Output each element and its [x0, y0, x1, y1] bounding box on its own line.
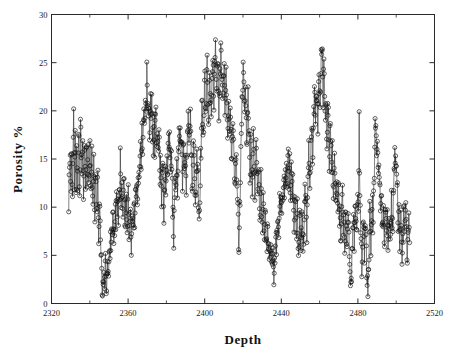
- chart-canvas: 232023602400244024802520 051015202530 De…: [0, 0, 455, 358]
- porosity-depth-figure: 232023602400244024802520 051015202530 De…: [0, 0, 455, 358]
- y-tick-label: 30: [39, 10, 48, 20]
- y-tick-label: 10: [39, 202, 48, 212]
- figure-background: [0, 0, 455, 358]
- y-tick-label: 15: [39, 154, 48, 164]
- x-axis-label: Depth: [225, 332, 262, 347]
- x-tick-label: 2400: [196, 308, 213, 318]
- x-tick-label: 2440: [273, 308, 290, 318]
- y-tick-label: 0: [43, 299, 47, 309]
- x-tick-label: 2520: [426, 308, 443, 318]
- y-tick-label: 5: [43, 250, 47, 260]
- y-axis-label: Porosity %: [10, 125, 25, 193]
- y-tick-label: 20: [39, 106, 48, 116]
- x-tick-label: 2320: [43, 308, 60, 318]
- y-tick-label: 25: [39, 58, 48, 68]
- x-tick-label: 2480: [349, 308, 366, 318]
- x-tick-label: 2360: [120, 308, 137, 318]
